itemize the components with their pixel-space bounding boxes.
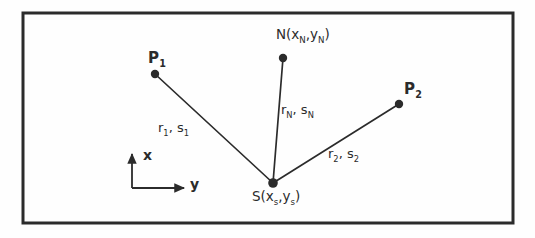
point-label-s-mid: ,y bbox=[278, 188, 290, 204]
point-label-s: S(xs,ys) bbox=[252, 190, 300, 204]
point-label-p2-text: P bbox=[404, 80, 415, 98]
edge-label-p2-s-comma: , bbox=[339, 146, 347, 161]
segment-n-s bbox=[273, 58, 283, 183]
point-marker-s bbox=[268, 178, 278, 188]
edge-label-n-s-comma: , bbox=[293, 102, 301, 117]
point-marker-p1 bbox=[151, 70, 159, 78]
point-label-n: N(xN,yN) bbox=[276, 28, 330, 42]
edge-label-n-s: rN, sN bbox=[281, 103, 314, 116]
point-label-p1-subscript: 1 bbox=[159, 58, 166, 69]
point-label-p2: P2 bbox=[404, 82, 422, 97]
geometry-diagram-figure: P1 P2 N(xN,yN) S(xs,ys) r1, s1 rN, sN r2… bbox=[0, 0, 535, 238]
point-label-n-text: N(x bbox=[276, 26, 299, 42]
point-label-n-mid: ,y bbox=[306, 26, 318, 42]
edge-label-p1-s-s-subscript: 1 bbox=[184, 128, 189, 138]
edge-label-p2-s: r2, s2 bbox=[328, 147, 359, 160]
point-marker-n bbox=[279, 54, 287, 62]
edge-label-p1-s: r1, s1 bbox=[158, 121, 189, 134]
edge-label-n-s-s-subscript: N bbox=[308, 110, 314, 120]
point-label-p1: P1 bbox=[148, 51, 166, 66]
point-marker-p2 bbox=[395, 100, 403, 108]
edge-label-p1-s-comma: , bbox=[169, 120, 177, 135]
point-label-p1-text: P bbox=[148, 49, 159, 67]
edge-label-p1-s-s: s bbox=[177, 120, 184, 135]
point-label-s-text: S(x bbox=[252, 188, 274, 204]
point-label-p2-subscript: 2 bbox=[415, 89, 422, 100]
point-label-n-close: ) bbox=[325, 26, 330, 42]
axis-label-y: y bbox=[190, 177, 199, 191]
point-label-s-close: ) bbox=[295, 188, 300, 204]
edge-label-p2-s-s-subscript: 2 bbox=[354, 154, 359, 164]
edge-label-n-s-s: s bbox=[301, 102, 308, 117]
edge-label-p2-s-s: s bbox=[347, 146, 354, 161]
axis-label-x: x bbox=[143, 148, 152, 162]
